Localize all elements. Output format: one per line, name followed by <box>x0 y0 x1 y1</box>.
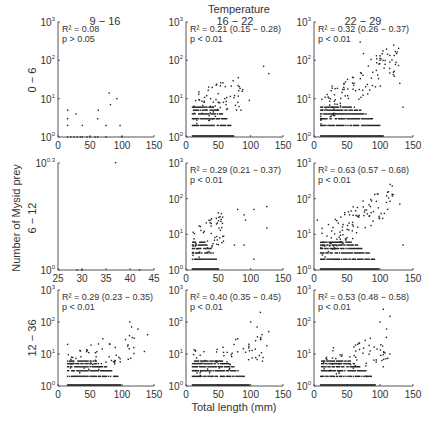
y-tick-label: 102 <box>169 193 184 205</box>
x-tick-label: 100 <box>114 140 131 151</box>
y-tick-label: 103 <box>297 16 312 28</box>
r-squared-label: R² = 0.53 (0.48 − 0.58) <box>318 292 409 302</box>
panel-2-0: 100101102103050100150R² = 0.29 (0.23 − 0… <box>41 284 163 400</box>
p-value-label: p < 0.01 <box>62 302 95 312</box>
x-tick-label: 25 <box>52 273 64 284</box>
panel-2-1: 100101102103050100150R² = 0.40 (0.35 − 0… <box>169 284 292 400</box>
x-tick-label: 150 <box>146 140 163 151</box>
p-value-label: p < 0.01 <box>190 175 223 185</box>
panel-1-1: 100101102103050100150R² = 0.29 (0.21 − 0… <box>169 157 292 284</box>
x-tick-label: 30 <box>76 273 88 284</box>
y-tick-label: 103 <box>169 157 184 169</box>
row-label-12-36: 12 − 36 <box>26 319 38 356</box>
x-tick-label: 0 <box>183 273 189 284</box>
x-tick-label: 45 <box>148 273 160 284</box>
y-tick-label: 100 <box>41 131 56 143</box>
panel-1-0: 100100.32530354045 <box>36 157 160 284</box>
y-tick-label: 101 <box>169 348 184 360</box>
y-tick-label: 101 <box>297 228 312 240</box>
x-tick-label: 0 <box>311 389 317 400</box>
y-tick-label: 101 <box>169 228 184 240</box>
y-tick-label: 103 <box>169 284 184 296</box>
x-tick-label: 150 <box>405 140 422 151</box>
r-squared-label: R² = 0.63 (0.57 − 0.68) <box>318 165 409 175</box>
p-value-label: p > 0.05 <box>62 34 95 44</box>
y-tick-label: 100 <box>297 380 312 392</box>
y-tick-label: 103 <box>297 284 312 296</box>
x-tick-label: 100 <box>114 389 131 400</box>
y-tick-label: 100 <box>297 131 312 143</box>
x-tick-label: 150 <box>146 389 163 400</box>
x-tick-label: 0 <box>183 140 189 151</box>
y-tick-label: 103 <box>169 16 184 28</box>
y-tick-label: 101 <box>297 348 312 360</box>
x-tick-label: 100 <box>372 273 389 284</box>
x-tick-label: 0 <box>55 140 61 151</box>
y-tick-label: 100.3 <box>36 157 56 169</box>
p-value-label: p < 0.01 <box>190 302 223 312</box>
x-tick-label: 50 <box>84 140 96 151</box>
x-tick-label: 0 <box>311 273 317 284</box>
x-tick-label: 150 <box>275 389 292 400</box>
r-squared-label: R² = 0.29 (0.21 − 0.37) <box>190 165 281 175</box>
x-tick-label: 50 <box>84 389 96 400</box>
y-tick-label: 102 <box>41 54 56 66</box>
r-squared-label: R² = 0.40 (0.35 − 0.45) <box>190 292 281 302</box>
x-tick-label: 0 <box>55 389 61 400</box>
x-tick-label: 100 <box>372 389 389 400</box>
x-tick-label: 50 <box>341 140 353 151</box>
p-value-label: p < 0.01 <box>190 34 223 44</box>
row-label-6-12: 6 − 12 <box>26 203 38 234</box>
y-tick-label: 101 <box>297 93 312 105</box>
y-tick-label: 102 <box>41 316 56 328</box>
y-tick-label: 102 <box>169 316 184 328</box>
panel-1-2: 100101102103050100150R² = 0.63 (0.57 − 0… <box>297 157 422 284</box>
x-tick-label: 150 <box>405 389 422 400</box>
x-tick-label: 100 <box>242 273 259 284</box>
chart-title: Temperature <box>208 3 270 15</box>
y-tick-label: 102 <box>297 193 312 205</box>
y-tick-label: 101 <box>41 348 56 360</box>
y-tick-label: 100 <box>169 380 184 392</box>
x-tick-label: 50 <box>341 389 353 400</box>
x-tick-label: 150 <box>275 273 292 284</box>
y-tick-label: 100 <box>41 380 56 392</box>
y-tick-label: 102 <box>297 54 312 66</box>
x-axis-label: Total length (mm) <box>192 401 277 413</box>
x-tick-label: 0 <box>183 389 189 400</box>
y-tick-label: 100 <box>169 264 184 276</box>
r-squared-label: R² = 0.21 (0.15 − 0.28) <box>190 24 281 34</box>
x-tick-label: 50 <box>213 389 225 400</box>
panel-0-2: 100101102103050100150R² = 0.32 (0.26 − 0… <box>297 16 422 151</box>
panels: 100101102103050100150R² = 0.08p > 0.0510… <box>36 16 422 400</box>
panel-2-2: 100101102103050100150R² = 0.53 (0.48 − 0… <box>297 284 422 400</box>
x-tick-label: 100 <box>242 140 259 151</box>
x-tick-label: 150 <box>405 273 422 284</box>
y-tick-label: 100 <box>169 131 184 143</box>
scatter-grid-figure: Temperature 9 − 16 16 − 22 22 − 29 Numbe… <box>0 0 433 426</box>
row-label-0-6: 0 − 6 <box>26 68 38 93</box>
r-squared-label: R² = 0.32 (0.26 − 0.37) <box>318 24 409 34</box>
y-tick-label: 101 <box>41 93 56 105</box>
p-value-label: p < 0.01 <box>318 302 351 312</box>
y-tick-label: 103 <box>41 284 56 296</box>
x-tick-label: 100 <box>372 140 389 151</box>
y-tick-label: 103 <box>297 157 312 169</box>
r-squared-label: R² = 0.29 (0.23 − 0.35) <box>62 292 153 302</box>
x-tick-label: 150 <box>275 140 292 151</box>
y-tick-label: 102 <box>169 54 184 66</box>
panel-0-1: 100101102103050100150R² = 0.21 (0.15 − 0… <box>169 16 292 151</box>
x-tick-label: 50 <box>213 273 225 284</box>
y-tick-label: 100 <box>297 264 312 276</box>
x-tick-label: 50 <box>213 140 225 151</box>
p-value-label: p < 0.01 <box>318 34 351 44</box>
r-squared-label: R² = 0.08 <box>62 24 99 34</box>
p-value-label: p < 0.01 <box>318 175 351 185</box>
x-tick-label: 0 <box>311 140 317 151</box>
x-tick-label: 100 <box>242 389 259 400</box>
x-tick-label: 50 <box>341 273 353 284</box>
y-tick-label: 101 <box>169 93 184 105</box>
panel-0-0: 100101102103050100150R² = 0.08p > 0.05 <box>41 16 163 151</box>
y-tick-label: 102 <box>297 316 312 328</box>
x-tick-label: 40 <box>124 273 136 284</box>
